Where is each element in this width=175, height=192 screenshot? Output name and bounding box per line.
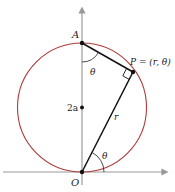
segment-OP xyxy=(82,72,133,172)
point-center xyxy=(80,106,84,110)
point-O xyxy=(80,170,84,174)
label-theta-bottom: θ xyxy=(102,151,108,161)
label-O: O xyxy=(71,177,79,188)
label-2a: 2a xyxy=(67,103,79,113)
label-A: A xyxy=(71,29,79,40)
point-P xyxy=(131,70,135,74)
label-theta-top: θ xyxy=(90,67,96,77)
label-P: P = (r, θ) xyxy=(129,57,171,67)
label-r: r xyxy=(114,112,119,122)
polar-circle-diagram: A O P = (r, θ) 2a r θ θ xyxy=(0,0,175,192)
angle-arc-top xyxy=(82,52,99,62)
point-A xyxy=(80,41,84,45)
